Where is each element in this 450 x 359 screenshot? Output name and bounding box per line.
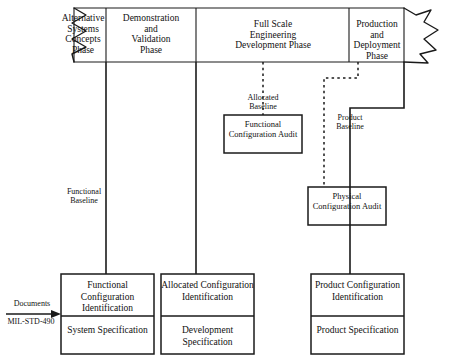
baseline-line: Product xyxy=(338,113,363,122)
box-line: Product xyxy=(315,280,345,290)
box-line: Functional xyxy=(87,280,128,290)
box-line: Specification xyxy=(98,325,148,335)
baseline-line: Baseline xyxy=(249,102,277,111)
baseline-line: Functional xyxy=(67,187,101,196)
phase-line: Engineering xyxy=(198,30,348,41)
phase-line: Concepts xyxy=(60,34,106,45)
baseline-line: Allocated xyxy=(247,93,278,102)
product-baseline-line xyxy=(350,62,404,274)
box-line: Development xyxy=(182,325,233,335)
phase-line: Production xyxy=(350,19,404,30)
allocated-configuration-identification-label: Allocated Configuration Identification xyxy=(161,280,254,303)
audit-line: Configuration xyxy=(313,201,361,211)
phase-label-production-and-deployment: Production and Deployment Phase xyxy=(350,19,404,62)
functional-baseline-label: Functional Baseline xyxy=(63,187,105,206)
development-specification-label: Development Specification xyxy=(161,325,254,348)
phase-line: Phase xyxy=(60,45,106,56)
box-line: Allocated xyxy=(161,280,198,290)
audit-line: Audit xyxy=(278,129,297,139)
documents-label: Documents xyxy=(7,300,57,309)
box-line: System xyxy=(67,325,95,335)
phase-line: Demonstration xyxy=(108,13,194,24)
product-specification-label: Product Specification xyxy=(311,325,404,337)
box-line: Specification xyxy=(182,337,232,347)
box-line: Identification xyxy=(182,292,233,302)
phase-line: Development Phase xyxy=(198,40,348,51)
phase-line: Full Scale xyxy=(198,19,348,30)
baseline-line: Baseline xyxy=(336,122,364,131)
audit-line: Functional xyxy=(245,119,281,129)
phase-line: Alternative xyxy=(60,13,106,24)
phase-line: Deployment Phase xyxy=(350,40,404,61)
product-baseline-label: Product Baseline xyxy=(329,113,371,132)
phase-line: Phase xyxy=(108,45,194,56)
mil-std-490-label: MIL-STD-490 xyxy=(2,318,60,327)
phase-line: Validation xyxy=(108,34,194,45)
phase-line: and xyxy=(350,30,404,41)
baseline-line: Baseline xyxy=(70,196,98,205)
system-specification-label: System Specification xyxy=(61,325,154,337)
box-line: Identification xyxy=(82,303,133,313)
allocated-baseline-label: Allocated Baseline xyxy=(233,93,293,112)
banner-torn-edge-right xyxy=(404,8,438,63)
audit-line: Physical xyxy=(333,191,362,201)
physical-configuration-audit-label: Physical Configuration Audit xyxy=(308,191,386,211)
functional-configuration-identification-label: Functional Configuration Identification xyxy=(61,280,154,315)
phase-line: and xyxy=(108,24,194,35)
box-line: Product xyxy=(316,325,346,335)
product-configuration-identification-label: Product Configuration Identification xyxy=(311,280,404,303)
audit-line: Configuration xyxy=(229,129,277,139)
box-line: Specification xyxy=(348,325,398,335)
phase-label-alternative-systems-concepts: Alternative Systems Concepts Phase xyxy=(60,13,106,56)
box-line: Configuration xyxy=(81,292,134,302)
box-line: Identification xyxy=(332,292,383,302)
audit-line: Audit xyxy=(362,201,381,211)
box-line: Configuration xyxy=(201,280,254,290)
functional-configuration-audit-label: Functional Configuration Audit xyxy=(224,119,302,139)
configuration-baseline-diagram: Alternative Systems Concepts Phase Demon… xyxy=(0,0,450,359)
phase-line: Systems xyxy=(60,24,106,35)
phase-label-demonstration-and-validation: Demonstration and Validation Phase xyxy=(108,13,194,56)
box-line: Configuration xyxy=(347,280,400,290)
phase-label-full-scale-engineering-development: Full Scale Engineering Development Phase xyxy=(198,19,348,51)
